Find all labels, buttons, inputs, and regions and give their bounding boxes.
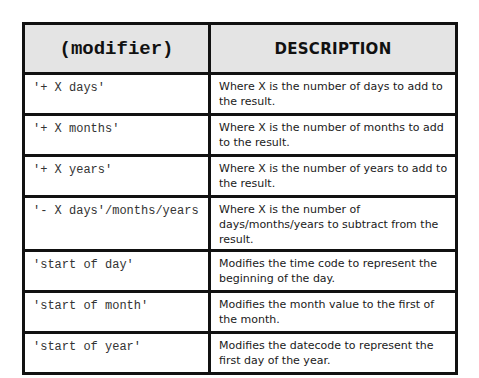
description-cell: Modifies the datecode to represent the f…: [210, 333, 457, 374]
description-cell: Where X is the number of years to add to…: [210, 156, 457, 197]
modifier-table: (modifier) DESCRIPTION '+ X days' Where …: [22, 22, 458, 375]
description-cell: Modifies the time code to represent the …: [210, 251, 457, 292]
modifier-cell: 'start of day': [24, 251, 210, 292]
description-cell: Where X is the number of days to add to …: [210, 74, 457, 115]
table-row: '- X days'/months/years Where X is the n…: [24, 197, 457, 251]
header-row: (modifier) DESCRIPTION: [24, 24, 457, 74]
description-cell: Where X is the number of days/months/yea…: [210, 197, 457, 251]
modifier-cell: '+ X months': [24, 115, 210, 156]
table-row: '+ X months' Where X is the number of mo…: [24, 115, 457, 156]
modifier-cell: '- X days'/months/years: [24, 197, 210, 251]
description-cell: Modifies the month value to the first of…: [210, 292, 457, 333]
table-row: '+ X years' Where X is the number of yea…: [24, 156, 457, 197]
header-modifier: (modifier): [24, 24, 210, 74]
description-cell: Where X is the number of months to add t…: [210, 115, 457, 156]
table-row: 'start of month' Modifies the month valu…: [24, 292, 457, 333]
modifier-cell: 'start of year': [24, 333, 210, 374]
modifier-cell: 'start of month': [24, 292, 210, 333]
table-row: 'start of day' Modifies the time code to…: [24, 251, 457, 292]
modifier-cell: '+ X years': [24, 156, 210, 197]
header-description: DESCRIPTION: [210, 24, 457, 74]
table-row: 'start of year' Modifies the datecode to…: [24, 333, 457, 374]
modifier-cell: '+ X days': [24, 74, 210, 115]
table-row: '+ X days' Where X is the number of days…: [24, 74, 457, 115]
table-body: '+ X days' Where X is the number of days…: [24, 74, 457, 374]
table-header: (modifier) DESCRIPTION: [24, 24, 457, 74]
